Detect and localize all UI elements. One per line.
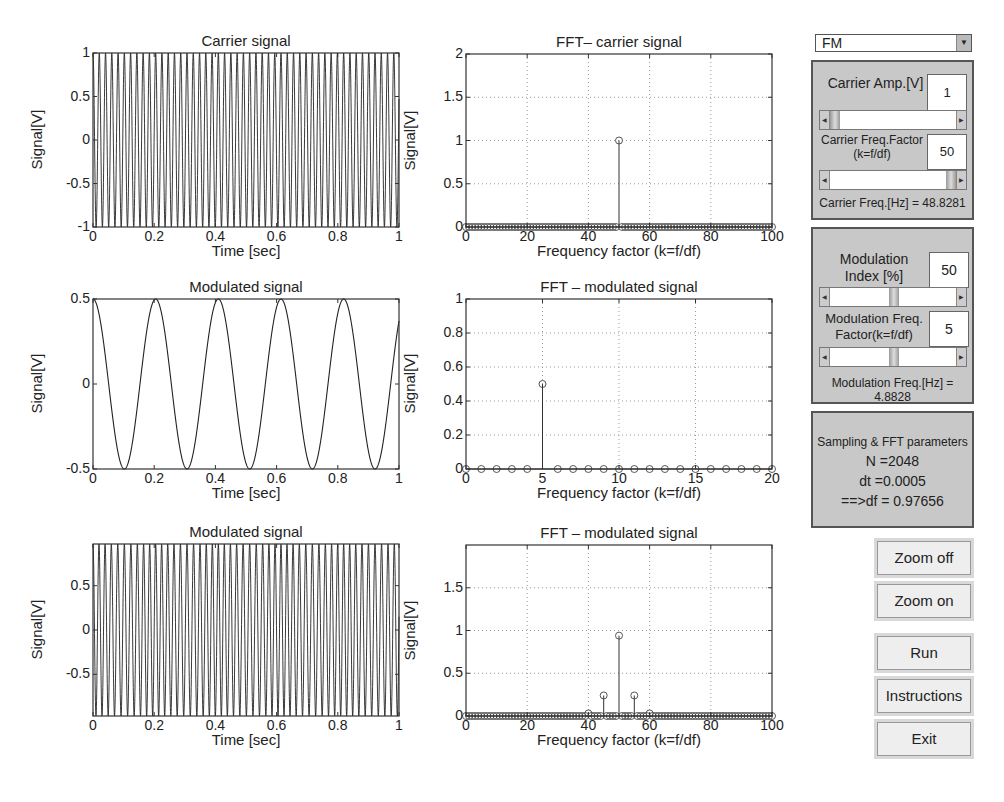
carrier-freq-readout: Carrier Freq.[Hz] = 48.8281 [813, 196, 972, 210]
x-tick-label: 80 [691, 717, 731, 733]
sampling-n: N =2048 [813, 454, 972, 468]
modulation-freq-factor-label-line1: Modulation Freq. [819, 311, 929, 327]
modulation-type-dropdown[interactable]: FM ▼ [815, 34, 972, 52]
carrier-amp-label: Carrier Amp.[V] [823, 76, 928, 90]
modulation-panel: Modulation Index [%] 50 ◀ ▶ Modulation F… [811, 227, 974, 404]
carrier-freq-factor-input[interactable]: 50 [927, 134, 967, 170]
y-axis-label: Signal[V] [401, 580, 418, 680]
slider-thumb[interactable] [830, 111, 840, 129]
slider-right-arrow-icon[interactable]: ▶ [956, 111, 966, 129]
run-button[interactable]: Run [877, 636, 971, 670]
y-tick-label: 1 [423, 622, 463, 638]
x-axis-label: Frequency factor (k=f/df) [466, 731, 772, 748]
modulation-freq-readout: Modulation Freq.[Hz] = 4.8828 [813, 376, 972, 404]
chevron-down-icon[interactable]: ▼ [956, 35, 971, 51]
carrier-freq-factor-label: Carrier Freq.Factor (k=f/df) [817, 133, 927, 161]
sampling-dt: dt =0.0005 [813, 474, 972, 488]
modulation-index-label-line2: Index [%] [819, 268, 929, 285]
carrier-amp-input[interactable]: 1 [927, 74, 967, 111]
modulation-index-slider[interactable]: ◀ ▶ [819, 287, 967, 307]
carrier-freq-factor-label-line1: Carrier Freq.Factor [817, 133, 927, 147]
carrier-freq-factor-label-line2: (k=f/df) [817, 147, 927, 161]
exit-button[interactable]: Exit [877, 722, 971, 756]
slider-left-arrow-icon[interactable]: ◀ [820, 288, 830, 306]
slider-right-arrow-icon[interactable]: ▶ [956, 288, 966, 306]
slider-thumb[interactable] [889, 288, 899, 306]
x-tick-label: 100 [752, 717, 792, 733]
carrier-freq-factor-slider[interactable]: ◀ ▶ [819, 170, 967, 190]
sampling-df: ==>df = 0.97656 [813, 494, 972, 508]
slider-thumb[interactable] [946, 171, 956, 189]
sampling-panel: Sampling & FFT parameters N =2048 dt =0.… [811, 411, 974, 528]
slider-right-arrow-icon[interactable]: ▶ [956, 348, 966, 366]
modulation-index-label-line1: Modulation [819, 251, 929, 268]
y-tick-label: 0.5 [423, 664, 463, 680]
x-tick-label: 20 [507, 717, 547, 733]
y-tick-label: 0 [423, 707, 463, 723]
slider-left-arrow-icon[interactable]: ◀ [820, 111, 830, 129]
y-tick-label: 1.5 [423, 579, 463, 595]
zoom-on-button[interactable]: Zoom on [877, 584, 971, 618]
modulation-index-input[interactable]: 50 [929, 252, 969, 288]
slider-thumb[interactable] [889, 348, 899, 366]
carrier-panel: Carrier Amp.[V] 1 ◀ ▶ Carrier Freq.Facto… [811, 60, 974, 220]
modulation-type-value: FM [822, 35, 842, 51]
modulation-freq-factor-slider[interactable]: ◀ ▶ [819, 347, 967, 367]
modulation-freq-factor-label: Modulation Freq. Factor(k=f/df) [819, 311, 929, 343]
modulation-freq-factor-label-line2: Factor(k=f/df) [819, 327, 929, 343]
x-tick-label: 60 [630, 717, 670, 733]
x-tick-label: 40 [568, 717, 608, 733]
slider-left-arrow-icon[interactable]: ◀ [820, 171, 830, 189]
slider-left-arrow-icon[interactable]: ◀ [820, 348, 830, 366]
plot-title: FFT – modulated signal [466, 524, 772, 541]
modulation-freq-factor-input[interactable]: 5 [929, 311, 969, 347]
sampling-title: Sampling & FFT parameters [813, 435, 972, 449]
instructions-button[interactable]: Instructions [877, 679, 971, 713]
zoom-off-button[interactable]: Zoom off [877, 541, 971, 575]
carrier-amp-slider[interactable]: ◀ ▶ [819, 110, 967, 130]
modulation-index-label: Modulation Index [%] [819, 251, 929, 285]
slider-right-arrow-icon[interactable]: ▶ [956, 171, 966, 189]
